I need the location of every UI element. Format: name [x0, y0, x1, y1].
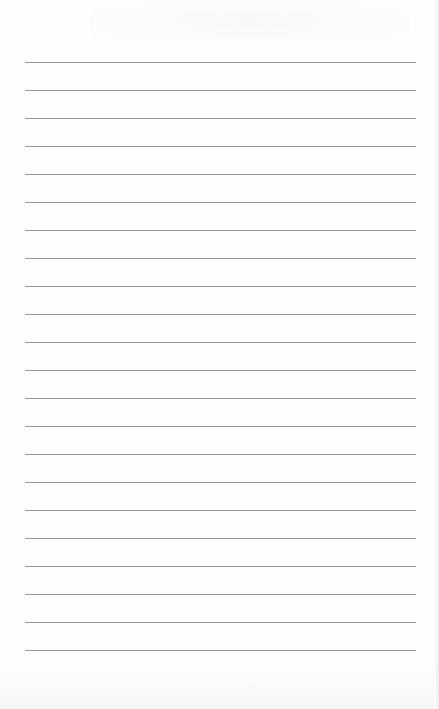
- ruled-line: [25, 286, 416, 287]
- paper-texture-bottom: [0, 660, 439, 709]
- ruled-line: [25, 230, 416, 231]
- ruled-line: [25, 314, 416, 315]
- ruled-line: [25, 566, 416, 567]
- ruled-line: [25, 146, 416, 147]
- ruled-line: [25, 482, 416, 483]
- ruled-line: [25, 370, 416, 371]
- ruled-line: [25, 454, 416, 455]
- ruled-line: [25, 90, 416, 91]
- ruled-line: [25, 202, 416, 203]
- lined-paper-page: [0, 0, 439, 709]
- paper-texture-top: [90, 0, 410, 45]
- ruled-line: [25, 118, 416, 119]
- ruled-line: [25, 342, 416, 343]
- ruled-line: [25, 258, 416, 259]
- ruled-line: [25, 538, 416, 539]
- ruled-line: [25, 650, 416, 651]
- ruled-line: [25, 62, 416, 63]
- ruled-line: [25, 622, 416, 623]
- ruled-line: [25, 594, 416, 595]
- ruled-line: [25, 174, 416, 175]
- ruled-line: [25, 426, 416, 427]
- page-edge-shadow: [434, 0, 439, 709]
- ruled-line: [25, 398, 416, 399]
- ruled-line: [25, 510, 416, 511]
